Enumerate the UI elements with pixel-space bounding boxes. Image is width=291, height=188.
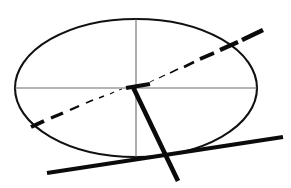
dash-segment (51, 113, 63, 118)
dash-segment (150, 80, 154, 82)
dash-segment (70, 106, 79, 110)
dash-segment (110, 92, 114, 94)
dash-segment (184, 62, 194, 67)
thick-radius-line (133, 87, 178, 181)
dash-segment (119, 89, 122, 90)
thick-tangent-line (47, 137, 283, 173)
dash-segment (99, 96, 104, 98)
dash-segment (31, 121, 44, 127)
dash-segment (159, 75, 165, 78)
thick-center-cap-line (126, 84, 150, 88)
dash-segment (170, 69, 178, 73)
dash-segment (86, 100, 93, 103)
dash-segment (242, 30, 263, 40)
dash-segment (200, 53, 214, 59)
figure-container (0, 0, 291, 188)
ellipse-diagram (0, 0, 291, 188)
